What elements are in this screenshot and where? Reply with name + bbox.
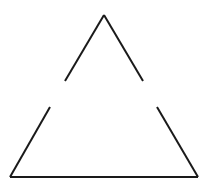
lower-right-edge — [157, 107, 198, 177]
triangle-diagram — [0, 0, 203, 192]
upper-left-edge — [65, 15, 104, 81]
upper-right-edge — [104, 15, 143, 81]
lower-left-edge — [10, 107, 50, 177]
triangle-edges — [10, 15, 198, 177]
